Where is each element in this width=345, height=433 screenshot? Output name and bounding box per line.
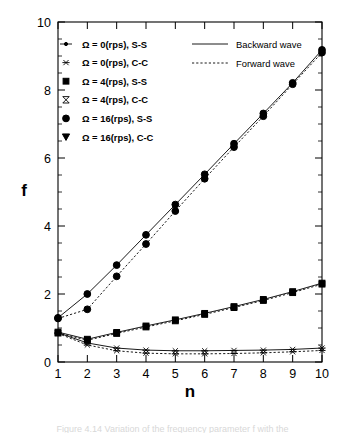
y-tick-label: 0 bbox=[44, 356, 51, 370]
y-axis-title: f bbox=[21, 181, 27, 200]
series-line bbox=[58, 53, 322, 319]
x-tick-label: 2 bbox=[84, 367, 91, 381]
y-tick-label: 8 bbox=[44, 84, 51, 98]
legend-label: Backward wave bbox=[236, 39, 302, 50]
x-axis-title: n bbox=[185, 382, 195, 401]
legend-entry: Ω = 4(rps), C-C bbox=[63, 94, 149, 105]
chart-series bbox=[54, 330, 325, 353]
x-tick-label: 6 bbox=[201, 367, 208, 381]
legend-entry: Backward wave bbox=[192, 39, 302, 50]
legend-label: Ω = 16(rps), C-C bbox=[82, 132, 154, 143]
x-tick-label: 1 bbox=[55, 367, 62, 381]
series-line bbox=[58, 284, 322, 340]
figure-chart: 024681012345678910fnΩ = 0(rps), S-SΩ = 0… bbox=[0, 0, 345, 433]
x-tick-label: 3 bbox=[113, 367, 120, 381]
series-line bbox=[58, 333, 322, 351]
x-tick-label: 7 bbox=[231, 367, 238, 381]
series-line bbox=[58, 50, 322, 318]
legend-entry: Ω = 0(rps), C-C bbox=[62, 57, 148, 68]
chart-series bbox=[55, 280, 325, 342]
legend-entry: Ω = 16(rps), S-S bbox=[63, 113, 153, 124]
legend-label: Ω = 0(rps), S-S bbox=[82, 39, 147, 50]
legend-label: Forward wave bbox=[236, 58, 295, 69]
x-tick-label: 10 bbox=[315, 367, 329, 381]
x-tick-label: 9 bbox=[289, 367, 296, 381]
chart-series bbox=[55, 49, 326, 322]
chart-series bbox=[54, 331, 325, 357]
legend-label: Ω = 16(rps), S-S bbox=[82, 113, 152, 124]
chart-series bbox=[55, 281, 325, 343]
legend-entry: Ω = 0(rps), S-S bbox=[60, 39, 147, 50]
series-line bbox=[58, 283, 322, 339]
legend-label: Ω = 4(rps), S-S bbox=[82, 76, 147, 87]
legend-label: Ω = 0(rps), C-C bbox=[82, 57, 148, 68]
y-tick-label: 4 bbox=[44, 220, 51, 234]
legend-label: Ω = 4(rps), C-C bbox=[82, 94, 148, 105]
legend-entry: Forward wave bbox=[192, 58, 295, 69]
x-tick-label: 5 bbox=[172, 367, 179, 381]
figure-caption: Figure 4.14 Variation of the frequency p… bbox=[0, 424, 345, 433]
y-tick-label: 10 bbox=[37, 16, 51, 30]
y-tick-label: 2 bbox=[44, 288, 51, 302]
chart-canvas: 024681012345678910fnΩ = 0(rps), S-SΩ = 0… bbox=[0, 0, 345, 433]
y-tick-label: 6 bbox=[44, 152, 51, 166]
x-tick-label: 4 bbox=[143, 367, 150, 381]
chart-series bbox=[55, 46, 326, 321]
x-tick-label: 8 bbox=[260, 367, 267, 381]
legend-entry: Ω = 4(rps), S-S bbox=[63, 76, 147, 87]
legend-entry: Ω = 16(rps), C-C bbox=[62, 132, 153, 143]
